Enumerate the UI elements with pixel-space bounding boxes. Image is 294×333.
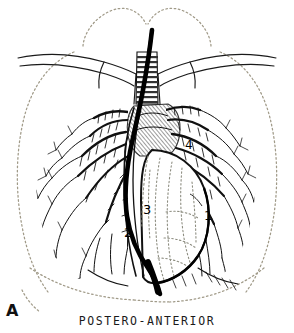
label-2: 2 <box>124 226 132 239</box>
label-3: 3 <box>143 203 151 216</box>
label-4: 4 <box>185 139 193 151</box>
label-1: 1 <box>204 209 212 222</box>
caption-container: POSTERO-ANTERIOR <box>0 310 294 333</box>
chest-radiograph-diagram <box>0 0 294 333</box>
figure-caption: POSTERO-ANTERIOR <box>79 314 215 328</box>
